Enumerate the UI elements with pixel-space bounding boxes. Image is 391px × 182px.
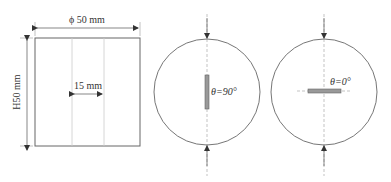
diagram-svg: ϕ 50 mm H50 mm 15 mm θ=90° θ=0° <box>0 0 391 182</box>
angle-label-90: θ=90° <box>211 86 237 97</box>
height-label: H50 mm <box>11 74 22 110</box>
specimen-view: ϕ 50 mm H50 mm 15 mm <box>11 14 140 150</box>
disc-theta-90: θ=90° <box>154 14 260 176</box>
angle-label-0: θ=0° <box>330 76 351 87</box>
disc-theta-0: θ=0° <box>271 14 377 176</box>
diagram-canvas: ϕ 50 mm H50 mm 15 mm θ=90° θ=0° <box>0 0 391 182</box>
diameter-label: ϕ 50 mm <box>69 14 105 25</box>
crack-width-label: 15 mm <box>74 80 102 91</box>
crack-vertical <box>205 75 209 109</box>
crack-horizontal <box>308 89 341 93</box>
specimen-outline <box>35 38 140 146</box>
